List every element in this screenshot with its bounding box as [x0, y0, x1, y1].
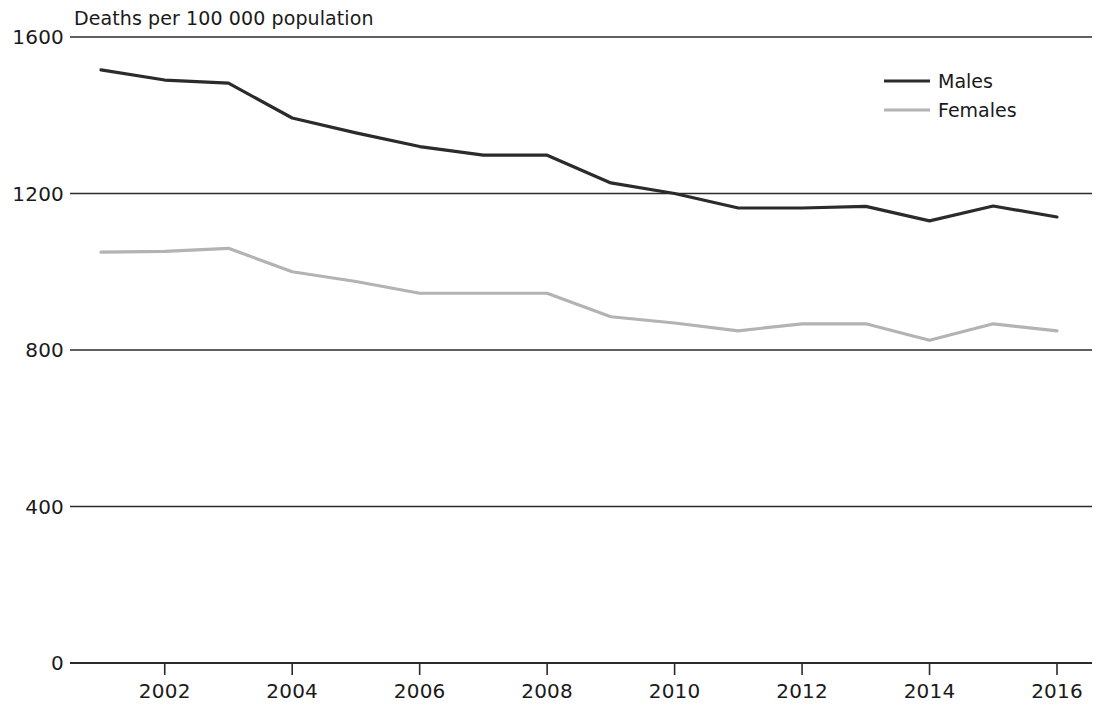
- legend-swatches: [884, 81, 930, 110]
- x-tick-label: 2004: [266, 679, 318, 703]
- x-tick-label: 2002: [139, 679, 191, 703]
- y-tick-label: 400: [0, 495, 64, 519]
- series-line-females: [101, 248, 1057, 340]
- x-axis-ticks: [165, 663, 1057, 675]
- x-tick-label: 2008: [521, 679, 573, 703]
- y-tick-label: 1600: [0, 25, 64, 49]
- x-tick-label: 2010: [649, 679, 701, 703]
- line-chart: Deaths per 100 000 population 0400800120…: [0, 0, 1101, 724]
- y-tick-label: 1200: [0, 182, 64, 206]
- y-tick-label: 0: [0, 651, 64, 675]
- series-line-males: [101, 70, 1057, 221]
- x-tick-label: 2012: [776, 679, 828, 703]
- y-tick-label: 800: [0, 338, 64, 362]
- x-tick-label: 2006: [394, 679, 446, 703]
- gridlines: [70, 37, 1092, 663]
- plot-area: [0, 0, 1101, 724]
- x-tick-label: 2014: [904, 679, 956, 703]
- legend-item-males-label: Males: [938, 70, 993, 92]
- legend-item-females-label: Females: [938, 99, 1017, 121]
- x-tick-label: 2016: [1031, 679, 1083, 703]
